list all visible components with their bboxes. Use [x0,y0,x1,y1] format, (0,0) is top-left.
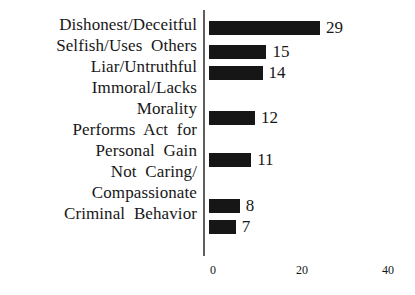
category-label-line: Performs Act for [0,119,197,140]
x-axis-tick-labels: 02040 [0,262,415,282]
bar-value-label: 12 [261,107,278,128]
category-label-line: Immoral/Lacks [0,77,197,98]
bar-liar-untruthful [209,66,263,80]
category-label-line: Selfish/Uses Others [0,35,197,56]
bar-selfish-uses-others [209,45,266,59]
bar-value-label: 7 [242,216,251,237]
bar-dishonest-deceitful [209,21,320,35]
bar-value-label: 15 [272,41,289,62]
bar-value-label: 14 [269,62,286,83]
category-label-line: Dishonest/Deceitful [0,14,197,35]
category-label-line: Morality [0,98,197,119]
category-label-line: Personal Gain [0,140,197,161]
category-label-line: Criminal Behavior [0,203,197,224]
category-label-line: Compassionate [0,182,197,203]
bar-immoral-lacks-morality [209,111,255,125]
x-tick-label: 20 [296,262,308,278]
bar-not-caring-compassionate [209,199,240,213]
category-label-column: Dishonest/Deceitful Selfish/Uses Others … [0,14,197,224]
category-label-line: Liar/Untruthful [0,56,197,77]
bar-value-label: 11 [257,149,273,170]
x-tick-label: 40 [382,262,394,278]
x-tick-label: 0 [210,262,216,278]
y-axis-line [203,10,205,256]
bar-value-label: 8 [246,195,255,216]
bar-chart: Dishonest/Deceitful Selfish/Uses Others … [0,0,415,295]
bar-performs-act-for-personal-gain [209,153,251,167]
category-label-line: Not Caring/ [0,161,197,182]
bar-value-label: 29 [326,17,343,38]
bar-criminal-behavior [209,220,236,234]
plot-area: 291514121187 [209,0,415,258]
